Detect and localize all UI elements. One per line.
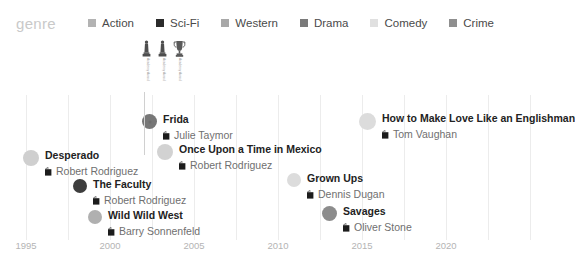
data-point-label-group: The FacultyRobert Rodriguez	[93, 178, 186, 209]
director-row: Robert Rodriguez	[93, 191, 186, 209]
data-point[interactable]: DesperadoRobert Rodriguez	[23, 150, 138, 180]
director-row: Robert Rodriguez	[179, 156, 322, 174]
award-item[interactable]: Academy Award	[157, 40, 170, 61]
data-point-dot[interactable]	[322, 206, 337, 221]
data-point[interactable]: The FacultyRobert Rodriguez	[73, 179, 186, 209]
movie-director: Robert Rodriguez	[56, 165, 138, 177]
legend-swatch-crime	[449, 19, 457, 27]
data-point[interactable]: How to Make Love Like an EnglishmanTom V…	[359, 113, 575, 143]
clapperboard-icon	[343, 218, 350, 236]
movie-title: Wild Wild West	[108, 209, 200, 221]
clapperboard-icon	[382, 125, 389, 143]
data-point-label-group: Once Upon a Time in MexicoRobert Rodrigu…	[179, 143, 322, 174]
movie-title: Desperado	[45, 149, 138, 161]
data-point-label-group: FridaJulie Taymor	[163, 113, 233, 144]
movie-director: Dennis Dugan	[318, 188, 385, 200]
legend-item-western[interactable]: Western	[221, 16, 278, 30]
director-row: Julie Taymor	[163, 126, 233, 144]
legend-swatch-comedy	[370, 19, 378, 27]
data-point[interactable]: Wild Wild WestBarry Sonnenfeld	[88, 210, 200, 240]
data-point-dot[interactable]	[157, 144, 173, 160]
clapperboard-icon	[93, 191, 100, 209]
legend-item-label: Comedy	[384, 16, 427, 30]
data-point-dot[interactable]	[359, 113, 376, 130]
legend-item-crime[interactable]: Crime	[449, 16, 494, 30]
legend-swatch-action	[88, 19, 96, 27]
clapperboard-icon	[108, 222, 115, 240]
award-marker-dot	[148, 120, 151, 123]
movie-director: Tom Vaughan	[393, 128, 457, 140]
legend-swatch-sci-fi	[156, 19, 164, 27]
legend-item-label: Crime	[463, 16, 494, 30]
data-point-dot[interactable]	[73, 179, 87, 193]
legend-item-label: Drama	[314, 16, 349, 30]
movie-title: Savages	[343, 205, 412, 217]
data-point-dot[interactable]	[287, 173, 301, 187]
legend: genre ActionSci-FiWesternDramaComedyCrim…	[0, 12, 568, 36]
awards-cluster: Academy AwardAcademy AwardAcademy Award	[141, 40, 189, 98]
legend-swatch-western	[221, 19, 229, 27]
legend-item-label: Western	[235, 16, 278, 30]
director-row: Barry Sonnenfeld	[108, 222, 200, 240]
legend-item-label: Action	[102, 16, 134, 30]
director-row: Tom Vaughan	[382, 125, 575, 143]
axis-tick-label: 2000	[99, 240, 120, 251]
movie-title: Frida	[163, 113, 233, 125]
award-label: Academy Award	[146, 58, 150, 81]
legend-item-drama[interactable]: Drama	[300, 16, 349, 30]
movie-title: Grown Ups	[307, 172, 385, 184]
clapperboard-icon	[307, 185, 314, 203]
data-point-label-group: How to Make Love Like an EnglishmanTom V…	[382, 112, 575, 143]
data-point[interactable]: Once Upon a Time in MexicoRobert Rodrigu…	[157, 144, 322, 174]
award-item[interactable]: Academy Award	[141, 40, 154, 61]
award-item[interactable]: Academy Award	[173, 40, 186, 61]
director-row: Dennis Dugan	[307, 185, 385, 203]
axis-tick-label: 2020	[435, 240, 456, 251]
x-axis: 199520002005201020152020	[0, 240, 568, 260]
data-point-dot[interactable]	[23, 150, 39, 166]
data-point[interactable]: Grown UpsDennis Dugan	[287, 173, 385, 203]
legend-swatch-drama	[300, 19, 308, 27]
movie-director: Julie Taymor	[174, 129, 233, 141]
clapperboard-icon	[45, 162, 52, 180]
movie-director: Oliver Stone	[354, 221, 412, 233]
movie-title: The Faculty	[93, 178, 186, 190]
data-point[interactable]: FridaJulie Taymor	[142, 114, 233, 144]
movie-director: Barry Sonnenfeld	[119, 225, 200, 237]
data-point[interactable]: SavagesOliver Stone	[322, 206, 412, 236]
axis-tick-label: 1995	[15, 240, 36, 251]
award-label: Academy Award	[162, 58, 166, 81]
award-label: Academy Award	[178, 58, 182, 81]
movie-title: Once Upon a Time in Mexico	[179, 143, 322, 155]
legend-item-sci-fi[interactable]: Sci-Fi	[156, 16, 199, 30]
legend-item-action[interactable]: Action	[88, 16, 134, 30]
movie-director: Robert Rodriguez	[190, 159, 272, 171]
clapperboard-icon	[179, 156, 186, 174]
legend-title: genre	[16, 15, 56, 33]
data-point-label-group: SavagesOliver Stone	[343, 205, 412, 236]
legend-items: ActionSci-FiWesternDramaComedyCrime	[88, 16, 516, 30]
director-row: Oliver Stone	[343, 218, 412, 236]
data-point-label-group: Grown UpsDennis Dugan	[307, 172, 385, 203]
clapperboard-icon	[163, 126, 170, 144]
axis-tick-label: 2010	[267, 240, 288, 251]
data-point-label-group: DesperadoRobert Rodriguez	[45, 149, 138, 180]
axis-tick-label: 2005	[183, 240, 204, 251]
legend-item-comedy[interactable]: Comedy	[370, 16, 427, 30]
movie-title: How to Make Love Like an Englishman	[382, 112, 575, 124]
axis-tick-label: 2015	[351, 240, 372, 251]
chart-plot-area: DesperadoRobert RodriguezThe FacultyRobe…	[0, 95, 568, 240]
legend-item-label: Sci-Fi	[170, 16, 199, 30]
movie-director: Robert Rodriguez	[104, 194, 186, 206]
data-point-label-group: Wild Wild WestBarry Sonnenfeld	[108, 209, 200, 240]
data-point-dot[interactable]	[88, 210, 102, 224]
award-connector-line	[144, 92, 145, 155]
